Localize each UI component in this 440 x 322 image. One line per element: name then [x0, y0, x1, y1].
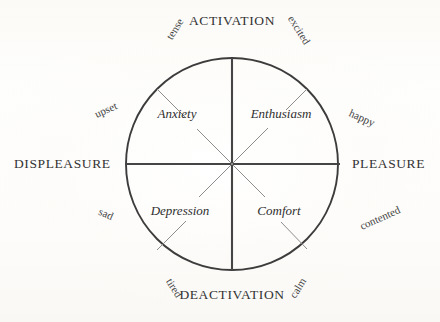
- axis-label-pleasure: PLEASURE: [352, 157, 425, 171]
- quadrant-label-enthusiasm: Enthusiasm: [251, 107, 312, 120]
- diagonal-ne-inner: [232, 128, 268, 164]
- axis-label-activation: ACTIVATION: [189, 14, 275, 28]
- quadrant-label-comfort: Comfort: [257, 204, 300, 217]
- diagonal-sw-outer: [157, 221, 186, 250]
- diagonal-sw-inner: [199, 164, 232, 197]
- axis-label-deactivation: DEACTIVATION: [179, 288, 284, 302]
- circumplex-figure: ACTIVATION DEACTIVATION DISPLEASURE PLEA…: [0, 0, 440, 322]
- diagonal-nw-inner: [197, 129, 232, 164]
- diagonal-se-outer: [281, 222, 307, 249]
- quadrant-label-anxiety: Anxiety: [158, 107, 197, 120]
- quadrant-label-depression: Depression: [151, 204, 210, 217]
- axis-label-displeasure: DISPLEASURE: [14, 157, 111, 171]
- diagonal-se-inner: [232, 164, 265, 197]
